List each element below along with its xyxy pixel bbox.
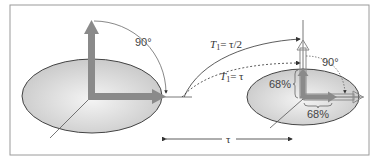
time-axis-label: τ [226, 133, 231, 145]
left-vertical-arrow-icon [84, 20, 99, 34]
vertical-percent-label: 68% [269, 78, 291, 90]
left-magnetization-state: 90° [22, 20, 192, 138]
left-angle-label: 90° [135, 36, 152, 48]
right-horizontal-filled-arrow [303, 95, 329, 100]
right-vertical-filled-arrow [301, 74, 306, 98]
curve-label-t1-tau: T1= τ [220, 70, 244, 84]
right-angle-label: 90° [322, 56, 339, 68]
right-magnetization-state: 68% 68% 90° [247, 20, 364, 128]
curve-label-t1-half-tau: T1= τ/2 [210, 38, 242, 52]
left-horizontal-arrow-shaft [88, 93, 154, 100]
time-axis: τ [166, 133, 292, 145]
left-vertical-arrow-shaft [88, 30, 95, 98]
horizontal-percent-label: 68% [307, 108, 329, 120]
t1-relaxation-diagram: 90° T1= τ/2 T1= τ 68% [0, 0, 384, 160]
